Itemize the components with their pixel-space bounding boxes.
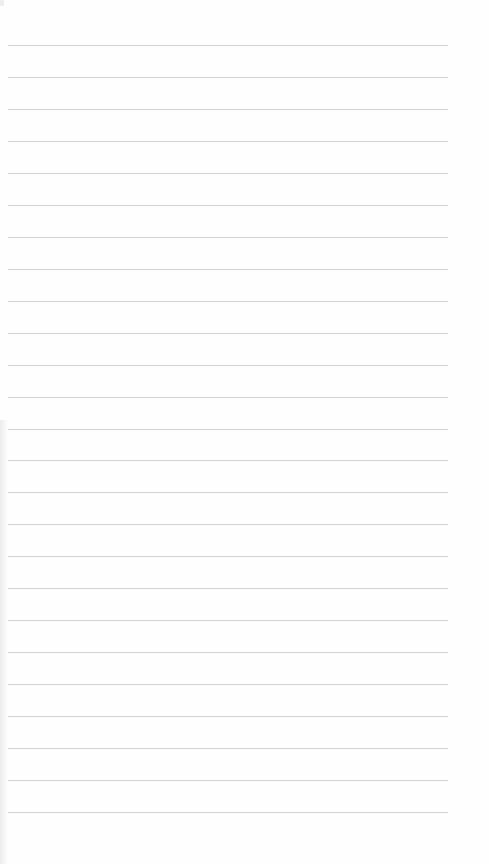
corner-mark (0, 0, 4, 6)
ruled-line (8, 269, 448, 270)
ruled-line (8, 301, 448, 302)
lined-paper-page (0, 0, 489, 864)
ruled-line (8, 429, 448, 430)
ruled-line (8, 684, 448, 685)
ruled-line (8, 812, 448, 813)
ruled-line (8, 460, 448, 461)
ruled-line (8, 365, 448, 366)
ruled-line (8, 237, 448, 238)
ruled-line (8, 588, 448, 589)
ruled-line (8, 109, 448, 110)
ruled-line (8, 780, 448, 781)
left-edge-shadow (0, 420, 8, 864)
ruled-line (8, 492, 448, 493)
ruled-line (8, 173, 448, 174)
ruled-line (8, 748, 448, 749)
ruled-line (8, 716, 448, 717)
ruled-line (8, 45, 448, 46)
ruled-line (8, 620, 448, 621)
ruled-line (8, 205, 448, 206)
ruled-line (8, 333, 448, 334)
ruled-line (8, 77, 448, 78)
ruled-line (8, 397, 448, 398)
ruled-line (8, 141, 448, 142)
ruled-line (8, 556, 448, 557)
ruled-line (8, 524, 448, 525)
ruled-line (8, 652, 448, 653)
